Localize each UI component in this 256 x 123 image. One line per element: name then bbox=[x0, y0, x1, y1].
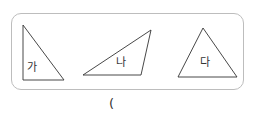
label-na: 나 bbox=[116, 57, 126, 68]
label-ga: 가 bbox=[27, 62, 37, 73]
answer-paren: ( bbox=[109, 96, 114, 111]
triangles-figure bbox=[0, 0, 256, 123]
label-da: 다 bbox=[200, 57, 210, 68]
triangle-da bbox=[178, 28, 237, 77]
